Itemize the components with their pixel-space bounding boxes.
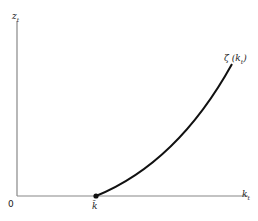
curve-label: ζ (kt) (224, 54, 247, 65)
y-axis-label: zt (12, 12, 19, 23)
diagram-canvas (0, 0, 258, 221)
origin-label: 0 (8, 200, 14, 209)
x-axis-label: kt (242, 190, 250, 201)
k-bar-point (93, 193, 98, 198)
zeta-curve (96, 64, 232, 196)
k-bar-label: k̄ (92, 202, 97, 211)
